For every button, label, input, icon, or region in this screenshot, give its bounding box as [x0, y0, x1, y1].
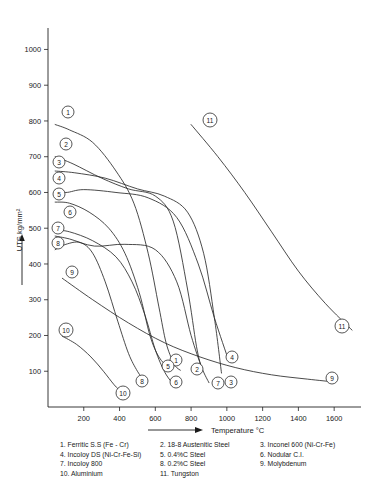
marker-2: 2: [191, 363, 203, 375]
legend-item-empty: [260, 469, 370, 479]
chart-plot-area: 1002003004005006007008009001000 20040060…: [0, 0, 371, 445]
marker-6: 6: [170, 376, 182, 388]
legend-item: 9. Molybdenum: [260, 459, 370, 469]
curve-1: [55, 125, 180, 371]
marker-8: 8: [52, 237, 64, 249]
marker-7: 7: [212, 377, 224, 389]
marker-label: 5: [166, 363, 170, 370]
curve-5: [55, 202, 168, 367]
marker-label: 4: [230, 354, 234, 361]
curve-3: [55, 171, 221, 373]
marker-label: 9: [70, 269, 74, 276]
y-tick-label: 900: [29, 81, 41, 90]
marker-10: 10: [116, 386, 130, 400]
marker-label: 1: [66, 109, 70, 116]
marker-8: 8: [136, 375, 148, 387]
y-axis-title-group: UTS kg/mm²: [15, 208, 25, 285]
legend-item: 10. Aluminium: [60, 469, 160, 479]
marker-11: 11: [335, 319, 349, 333]
marker-label: 6: [68, 209, 72, 216]
y-tick-label: 100: [29, 367, 41, 376]
curve-8: [55, 242, 144, 381]
marker-label: 9: [330, 375, 334, 382]
legend-item: 5. 0.4%C Steel: [160, 450, 260, 460]
marker-label: 4: [57, 175, 61, 182]
x-tick-label: 1200: [254, 414, 270, 423]
marker-1: 1: [62, 106, 74, 118]
x-tick-label: 200: [78, 414, 90, 423]
legend-row: 1. Ferritic S.S (Fe - Cr)2. 18-8 Austeni…: [60, 440, 370, 450]
marker-label: 6: [174, 379, 178, 386]
x-axis-title: Temperature °C: [211, 426, 265, 435]
marker-label: 11: [339, 323, 346, 330]
y-tick-label: 500: [29, 224, 41, 233]
marker-label: 2: [64, 141, 68, 148]
x-tick-label: 1000: [219, 414, 235, 423]
y-tick-label: 800: [29, 117, 41, 126]
legend-item: 11. Tungston: [160, 469, 260, 479]
legend: 1. Ferritic S.S (Fe - Cr)2. 18-8 Austeni…: [0, 440, 371, 478]
marker-label: 5: [57, 191, 61, 198]
series-number-markers: 12345678910111234567891011: [52, 106, 349, 400]
marker-label: 8: [56, 240, 60, 247]
y-tick-label: 300: [29, 295, 41, 304]
y-tick-label: 200: [29, 331, 41, 340]
marker-5: 5: [162, 360, 174, 372]
y-axis-ticks: 1002003004005006007008009001000: [25, 45, 48, 376]
marker-2: 2: [60, 138, 72, 150]
marker-label: 3: [229, 379, 233, 386]
legend-row: 7. Incoloy 8008. 0.2%C Steel9. Molybdenu…: [60, 459, 370, 469]
y-axis-title: UTS kg/mm²: [15, 208, 24, 251]
y-tick-label: 1000: [25, 45, 41, 54]
x-axis-ticks: 2004006008001000120014001600: [78, 407, 343, 423]
x-tick-label: 800: [185, 414, 197, 423]
y-tick-label: 400: [29, 260, 41, 269]
x-tick-label: 1400: [290, 414, 306, 423]
curve-4: [55, 190, 229, 361]
marker-label: 10: [62, 327, 70, 334]
x-tick-label: 400: [113, 414, 125, 423]
marker-3: 3: [53, 156, 65, 168]
curve-10: [62, 336, 121, 392]
marker-5: 5: [53, 188, 65, 200]
legend-item: 1. Ferritic S.S (Fe - Cr): [60, 440, 160, 450]
x-tick-label: 600: [149, 414, 161, 423]
marker-label: 3: [57, 159, 61, 166]
marker-label: 2: [195, 366, 199, 373]
marker-label: 1: [174, 357, 178, 364]
marker-3: 3: [225, 376, 237, 388]
marker-9: 9: [326, 372, 338, 384]
legend-item: 7. Incoloy 800: [60, 459, 160, 469]
curve-2: [55, 157, 202, 370]
legend-item: 4. Incoloy DS (Ni-Cr-Fe-Si): [60, 450, 160, 460]
marker-4: 4: [53, 172, 65, 184]
marker-label: 10: [119, 390, 127, 397]
y-tick-label: 700: [29, 152, 41, 161]
data-curves: [55, 125, 352, 392]
legend-item: 6. Nodular C.I.: [260, 450, 370, 460]
marker-9: 9: [66, 266, 78, 278]
x-tick-label: 1600: [326, 414, 342, 423]
x-axis-title-group: Temperature °C: [148, 426, 265, 435]
marker-11: 11: [203, 113, 217, 127]
marker-label: 8: [140, 378, 144, 385]
marker-label: 7: [56, 225, 60, 232]
uts-vs-temperature-figure: 1002003004005006007008009001000 20040060…: [0, 0, 371, 493]
marker-7: 7: [52, 222, 64, 234]
legend-row: 4. Incoloy DS (Ni-Cr-Fe-Si)5. 0.4%C Stee…: [60, 450, 370, 460]
x-axis-arrow-head: [195, 427, 203, 433]
legend-item: 8. 0.2%C Steel: [160, 459, 260, 469]
legend-row: 10. Aluminium11. Tungston: [60, 469, 370, 479]
marker-label: 7: [216, 380, 220, 387]
legend-item: 3. Inconel 600 (Ni-Cr-Fe): [260, 440, 370, 450]
axis-lines: [48, 28, 361, 407]
marker-4: 4: [226, 351, 238, 363]
legend-item: 2. 18-8 Austenitic Steel: [160, 440, 260, 450]
curve-11: [191, 125, 352, 331]
marker-10: 10: [59, 323, 73, 337]
y-tick-label: 600: [29, 188, 41, 197]
marker-6: 6: [64, 206, 76, 218]
marker-label: 11: [207, 117, 214, 124]
